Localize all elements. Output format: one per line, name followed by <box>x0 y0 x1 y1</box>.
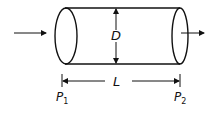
p2-label: P2 <box>174 90 186 106</box>
pipe-cylinder <box>55 8 188 64</box>
pipe-outlet-ellipse <box>172 8 188 64</box>
pipe-diagram: D L P1 P2 <box>0 0 211 116</box>
diameter-label: D <box>111 28 121 43</box>
length-dimension <box>62 74 180 87</box>
length-label: L <box>113 74 120 89</box>
p1-label: P1 <box>56 90 68 106</box>
pipe-inlet-ellipse <box>55 8 77 64</box>
